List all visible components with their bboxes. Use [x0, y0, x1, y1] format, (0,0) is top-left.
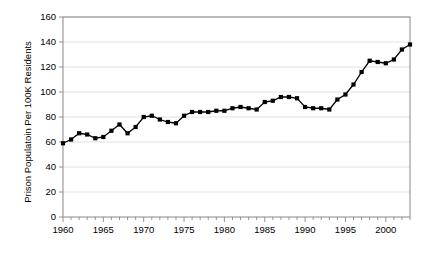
x-tick-label: 2000 — [375, 224, 396, 235]
data-point-marker — [182, 114, 186, 118]
data-point-marker — [109, 129, 113, 133]
data-point-marker — [271, 99, 275, 103]
data-point-marker — [142, 115, 146, 119]
data-point-marker — [368, 59, 372, 63]
data-point-marker — [222, 109, 226, 113]
x-tick-label: 1965 — [93, 224, 114, 235]
data-point-marker — [303, 105, 307, 109]
x-tick-label: 1970 — [133, 224, 154, 235]
x-tick-label: 1995 — [335, 224, 356, 235]
data-point-marker — [263, 100, 267, 104]
x-tick-label: 1990 — [295, 224, 316, 235]
data-point-marker — [166, 120, 170, 124]
data-point-marker — [214, 109, 218, 113]
data-point-marker — [408, 42, 412, 46]
data-point-marker — [238, 105, 242, 109]
data-point-marker — [61, 141, 65, 145]
data-point-marker — [125, 131, 129, 135]
data-point-marker — [150, 114, 154, 118]
data-point-marker — [247, 106, 251, 110]
data-point-marker — [190, 110, 194, 114]
x-tick-label: 1980 — [214, 224, 235, 235]
data-point-marker — [400, 47, 404, 51]
x-tick-label: 1985 — [254, 224, 275, 235]
data-point-marker — [392, 57, 396, 61]
data-point-marker — [376, 60, 380, 64]
data-point-marker — [319, 106, 323, 110]
data-point-marker — [359, 70, 363, 74]
data-point-marker — [255, 107, 259, 111]
y-tick-label: 40 — [45, 161, 56, 172]
data-point-marker — [101, 135, 105, 139]
data-point-marker — [279, 95, 283, 99]
data-point-marker — [311, 106, 315, 110]
y-tick-label: 60 — [45, 136, 56, 147]
data-point-marker — [351, 82, 355, 86]
y-axis-title: Prison Populatoin Per 100K Residents — [22, 41, 33, 203]
data-point-marker — [174, 121, 178, 125]
prison-population-line-chart: 020406080100120140160 196019651970197519… — [0, 0, 433, 254]
y-tick-label: 0 — [51, 211, 56, 222]
y-tick-label: 140 — [40, 36, 56, 47]
data-point-marker — [93, 136, 97, 140]
data-point-marker — [158, 117, 162, 121]
data-point-marker — [384, 61, 388, 65]
data-point-marker — [230, 106, 234, 110]
data-point-marker — [343, 92, 347, 96]
chart-canvas: 020406080100120140160 196019651970197519… — [0, 0, 433, 254]
data-point-marker — [85, 132, 89, 136]
data-point-marker — [335, 97, 339, 101]
data-point-marker — [134, 125, 138, 129]
y-tick-label: 160 — [40, 11, 56, 22]
y-tick-label: 80 — [45, 111, 56, 122]
data-point-marker — [117, 122, 121, 126]
data-point-marker — [287, 95, 291, 99]
data-point-marker — [69, 137, 73, 141]
chart-background — [0, 0, 433, 254]
data-point-marker — [295, 96, 299, 100]
x-tick-label: 1960 — [52, 224, 73, 235]
data-point-marker — [206, 110, 210, 114]
data-point-marker — [198, 110, 202, 114]
x-tick-labels: 196019651970197519801985199019952000 — [52, 224, 396, 235]
y-tick-label: 120 — [40, 61, 56, 72]
x-tick-label: 1975 — [173, 224, 194, 235]
data-point-marker — [77, 131, 81, 135]
y-tick-label: 20 — [45, 186, 56, 197]
y-tick-label: 100 — [40, 86, 56, 97]
data-point-marker — [327, 107, 331, 111]
